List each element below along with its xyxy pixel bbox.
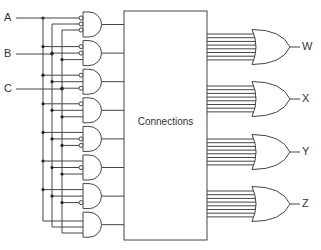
or-gate	[252, 187, 290, 222]
junction-dot	[41, 102, 44, 105]
and-gate	[83, 69, 102, 94]
output-label-w: W	[302, 41, 312, 52]
and-gate	[83, 155, 102, 180]
junction-dot	[41, 74, 44, 77]
inversion-bubble	[79, 86, 83, 90]
connections-label: Connections	[124, 116, 207, 127]
junction-dot	[50, 195, 53, 198]
junction-dot	[60, 87, 63, 90]
junction-dot	[50, 137, 53, 140]
inversion-bubble	[79, 102, 83, 106]
junction-dot	[50, 80, 53, 83]
inversion-bubble	[79, 73, 83, 77]
inversion-bubble	[79, 166, 83, 170]
inversion-bubble	[79, 28, 83, 32]
junction-dot	[50, 166, 53, 169]
junction-dot	[60, 58, 63, 61]
input-label-a: A	[4, 12, 11, 23]
inversion-bubble	[79, 143, 83, 147]
junction-dot	[60, 172, 63, 175]
junction-dot	[60, 115, 63, 118]
and-gate	[83, 98, 102, 123]
and-gate	[83, 212, 102, 237]
and-gate	[83, 184, 102, 209]
junction-dot	[60, 144, 63, 147]
junction-dot	[41, 45, 44, 48]
and-gate	[83, 12, 102, 37]
input-label-b: B	[4, 48, 11, 59]
or-gate	[252, 82, 290, 117]
inversion-bubble	[79, 22, 83, 26]
or-gate	[252, 135, 290, 170]
output-label-x: X	[302, 93, 309, 104]
output-label-y: Y	[302, 146, 309, 157]
inversion-bubble	[79, 45, 83, 49]
junction-dot	[50, 52, 53, 55]
or-gate	[252, 30, 290, 65]
junction-dot	[41, 159, 44, 162]
input-label-c: C	[4, 83, 12, 94]
and-gate	[83, 126, 102, 151]
inversion-bubble	[79, 51, 83, 55]
junction-dot	[41, 131, 44, 134]
junction-dot	[41, 188, 44, 191]
and-gate	[83, 41, 101, 66]
junction-dot	[60, 201, 63, 204]
inversion-bubble	[79, 201, 83, 205]
output-label-z: Z	[302, 198, 309, 209]
junction-dot	[50, 109, 53, 112]
inversion-bubble	[79, 16, 83, 20]
inversion-bubble	[79, 137, 83, 141]
